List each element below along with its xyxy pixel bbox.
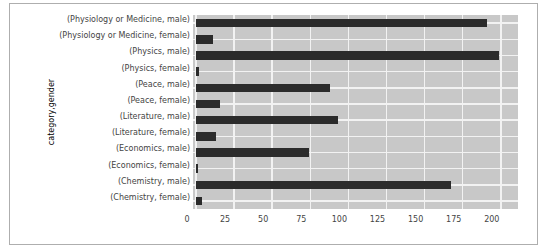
category-tick-label: (Chemistry, female) <box>24 193 190 203</box>
x-tick-label: 175 <box>434 215 474 225</box>
category-tick-label: (Physics, male) <box>24 47 190 57</box>
bar-physiology-or-medicine-male <box>196 19 487 28</box>
category-tick-label: (Chemistry, male) <box>24 177 190 187</box>
chart-frame: category,gender (Physiology or Medicine,… <box>9 3 538 245</box>
category-tick-label: (Peace, female) <box>24 96 190 106</box>
bar-literature-female <box>196 132 216 141</box>
gridline-horizontal <box>193 71 518 73</box>
category-tick-label: (Literature, male) <box>24 112 190 122</box>
gridline-horizontal <box>193 200 518 202</box>
bar-physiology-or-medicine-female <box>196 35 213 44</box>
gridline-vertical <box>462 15 464 209</box>
category-tick-label: (Economics, female) <box>24 161 190 171</box>
x-tick-label: 200 <box>472 215 512 225</box>
x-tick-label: 75 <box>281 215 321 225</box>
category-tick-label: (Literature, female) <box>24 128 190 138</box>
x-tick-label: 50 <box>243 215 283 225</box>
bar-economics-female <box>196 164 198 173</box>
category-tick-label: (Physics, female) <box>24 64 190 74</box>
bar-chemistry-female <box>196 197 202 206</box>
gridline-horizontal <box>193 136 518 138</box>
x-tick-label: 125 <box>358 215 398 225</box>
bar-literature-male <box>196 116 338 125</box>
x-tick-label: 100 <box>319 215 359 225</box>
bar-economics-male <box>196 148 309 157</box>
category-tick-label: (Physiology or Medicine, female) <box>24 31 190 41</box>
bar-physics-female <box>196 67 199 76</box>
plot-area <box>193 15 518 209</box>
gridline-horizontal <box>193 39 518 41</box>
bar-chemistry-male <box>196 181 451 190</box>
bar-physics-male <box>196 51 499 60</box>
gridline-horizontal <box>193 103 518 105</box>
bar-peace-female <box>196 100 220 109</box>
bar-peace-male <box>196 84 330 93</box>
x-tick-label: 25 <box>205 215 245 225</box>
x-tick-label: 0 <box>167 215 207 225</box>
gridline-horizontal <box>193 168 518 170</box>
x-tick-label: 150 <box>396 215 436 225</box>
category-tick-label: (Peace, male) <box>24 80 190 90</box>
category-tick-label: (Economics, male) <box>24 144 190 154</box>
gridline-vertical <box>500 15 502 209</box>
category-tick-label: (Physiology or Medicine, male) <box>24 15 190 25</box>
